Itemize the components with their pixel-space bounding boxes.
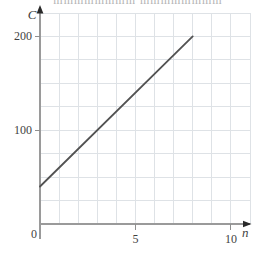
x-tick-label: 5 (132, 232, 138, 246)
origin-label: 0 (31, 227, 37, 241)
x-axis-label: n (242, 225, 249, 240)
line-chart: 1002005100Cn (0, 0, 262, 256)
chart-screenshot: mmmmmmmm mmmmmmmm 1002005100Cn (0, 0, 262, 256)
y-tick-label: 100 (14, 123, 32, 137)
x-tick-label: 10 (225, 232, 237, 246)
y-axis-label: C (28, 7, 37, 22)
y-axis-arrowhead-icon (37, 5, 44, 14)
y-tick-label: 200 (14, 29, 32, 43)
